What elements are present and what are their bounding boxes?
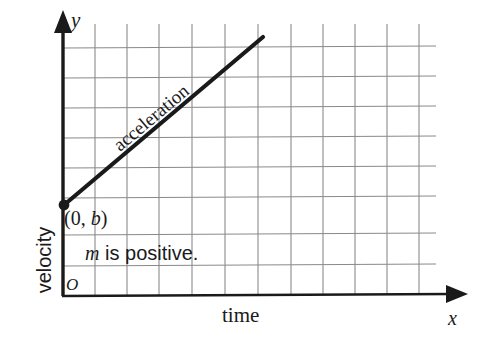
slope-positive-note: m is positive.	[85, 243, 198, 263]
x-axis-name-label: time	[222, 305, 259, 326]
y-intercept-label: (0, b)	[64, 208, 107, 228]
x-axis-tip-label: x	[448, 308, 457, 328]
y-axis	[54, 10, 72, 296]
y-axis-name-label: velocity	[34, 212, 54, 308]
graph-canvas	[0, 0, 483, 348]
x-axis-arrowhead-icon	[446, 285, 468, 303]
slope-variable: m	[85, 242, 99, 264]
acceleration-line	[64, 37, 263, 205]
x-axis	[62, 285, 468, 303]
intercept-open-paren: (0,	[64, 207, 91, 229]
y-axis-arrowhead-icon	[54, 10, 72, 33]
intercept-close-paren: )	[101, 207, 108, 229]
y-axis-tip-label: y	[71, 10, 80, 31]
slope-note-text: is positive.	[99, 242, 198, 264]
origin-label: O	[66, 276, 78, 293]
intercept-variable: b	[91, 207, 101, 229]
graph-figure: y x O (0, b) m is positive. time velocit…	[0, 0, 483, 348]
